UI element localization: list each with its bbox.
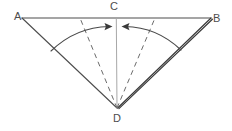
geometry-figure: A B C D bbox=[0, 0, 232, 131]
vertex-label-c: C bbox=[110, 1, 118, 12]
vertex-label-a: A bbox=[14, 11, 21, 22]
segment-bd-inner bbox=[119, 19, 212, 108]
segment-bd-outer bbox=[118, 18, 211, 108]
segment-cd bbox=[116, 18, 117, 108]
sweep-arc-right bbox=[125, 27, 181, 51]
dashed-ray-left bbox=[80, 18, 117, 108]
sweep-arc-left bbox=[51, 27, 109, 52]
vertex-label-b: B bbox=[213, 13, 220, 24]
segment-bd bbox=[118, 18, 213, 109]
segment-ad bbox=[22, 18, 117, 108]
vertex-label-d: D bbox=[113, 113, 121, 124]
dashed-ray-right bbox=[117, 18, 155, 108]
